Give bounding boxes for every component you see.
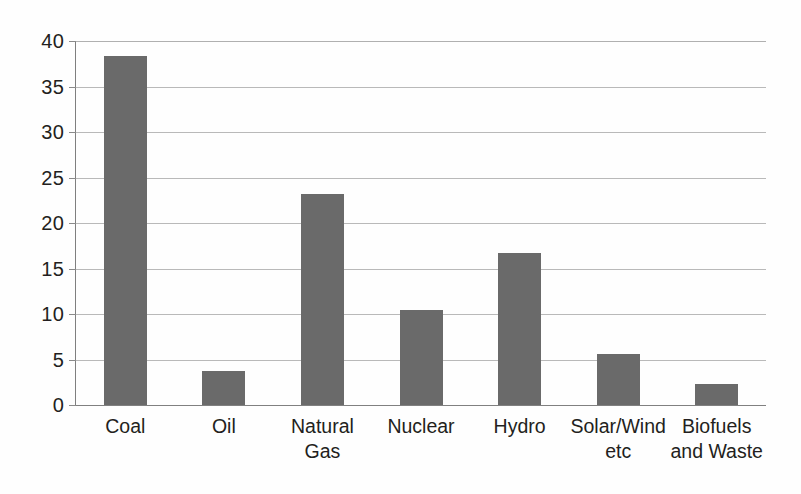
y-tick-mark-25 (69, 178, 76, 179)
y-tick-label-10: 10 (4, 304, 64, 324)
y-tick-label-15: 15 (4, 259, 64, 279)
bar-natural-gas (301, 194, 344, 405)
chart-screenshot: 0510152025303540 CoalOilNaturalGasNuclea… (0, 0, 801, 494)
x-tick-label-biofuels-and-waste: Biofuelsand Waste (642, 414, 792, 464)
bar-solar-wind-etc (597, 354, 640, 405)
y-tick-mark-15 (69, 269, 76, 270)
y-tick-label-20: 20 (4, 213, 64, 233)
bar-nuclear (400, 310, 443, 405)
y-tick-label-5: 5 (4, 350, 64, 370)
y-tick-mark-20 (69, 223, 76, 224)
y-tick-label-0: 0 (4, 395, 64, 415)
bar-oil (202, 371, 245, 405)
y-tick-mark-35 (69, 87, 76, 88)
x-axis-category-labels: CoalOilNaturalGasNuclearHydroSolar/Winde… (0, 414, 801, 484)
bar-biofuels-and-waste (695, 384, 738, 405)
plot-area (76, 41, 766, 405)
y-tick-label-40: 40 (4, 31, 64, 51)
y-tick-label-25: 25 (4, 168, 64, 188)
y-tick-mark-40 (69, 41, 76, 42)
gridline-0 (76, 405, 766, 406)
y-tick-label-35: 35 (4, 77, 64, 97)
gridline-35 (76, 87, 766, 88)
y-tick-mark-30 (69, 132, 76, 133)
y-tick-mark-5 (69, 360, 76, 361)
gridline-25 (76, 178, 766, 179)
gridline-30 (76, 132, 766, 133)
y-tick-mark-10 (69, 314, 76, 315)
y-tick-label-30: 30 (4, 122, 64, 142)
y-tick-mark-0 (69, 405, 76, 406)
bar-coal (104, 56, 147, 405)
bar-hydro (498, 253, 541, 405)
gridline-15 (76, 269, 766, 270)
gridline-20 (76, 223, 766, 224)
x-tick-label-line: and Waste (642, 439, 792, 464)
gridline-40 (76, 41, 766, 42)
x-tick-label-line: Gas (247, 439, 397, 464)
x-tick-label-line: Biofuels (642, 414, 792, 439)
